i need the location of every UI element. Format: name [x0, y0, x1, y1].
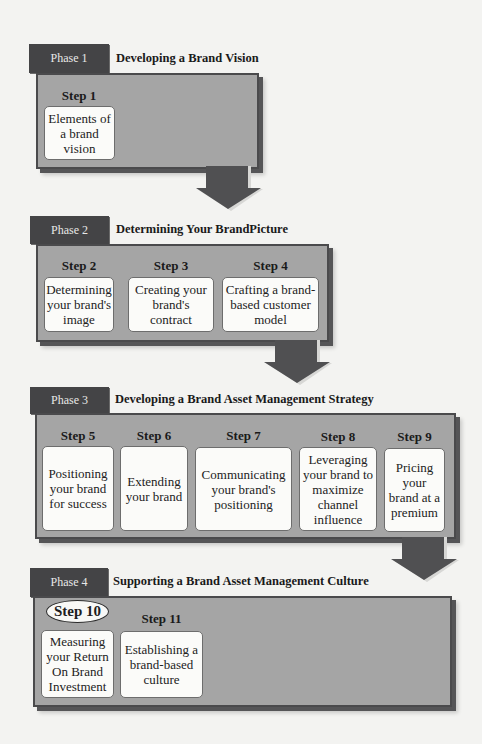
step-2-label: Step 2 [44, 258, 114, 274]
step-1-card: Elements of a brand vision [44, 106, 115, 160]
arrow-down-icon [195, 166, 267, 212]
step-8-card: Leveraging your brand to maximize channe… [299, 447, 377, 531]
step-5-card: Positioning your brand for success [42, 446, 114, 531]
step-7-label: Step 7 [195, 428, 292, 444]
step-4-label: Step 4 [222, 258, 319, 274]
step-4-card: Crafting a brand-based customer model [222, 277, 319, 332]
step-5-label: Step 5 [42, 428, 114, 444]
phase-4-title: Supporting a Brand Asset Management Cult… [113, 574, 369, 589]
phase-2-title: Determining Your BrandPicture [116, 222, 288, 237]
phase-3-title: Developing a Brand Asset Management Stra… [115, 392, 374, 407]
step-2-card: Determining your brand's image [44, 277, 114, 332]
step-6-card: Extending your brand [120, 446, 188, 531]
step-6-label: Step 6 [120, 428, 188, 444]
step-7-card: Communicating your brand's positioning [195, 447, 292, 531]
step-3-card: Creating your brand's contract [128, 277, 214, 332]
step-10-label-highlighted: Step 10 [46, 600, 109, 623]
phase-3-tab: Phase 3 [30, 387, 109, 414]
step-10-card: Measuring your Return On Brand Investmen… [41, 630, 114, 698]
phase-1-tab: Phase 1 [29, 44, 109, 73]
step-1-label: Step 1 [44, 88, 114, 104]
step-3-label: Step 3 [128, 258, 214, 274]
phase-1-title: Developing a Brand Vision [116, 51, 259, 66]
phase-4-tab: Phase 4 [30, 568, 108, 597]
step-11-card: Establishing a brand-based culture [120, 631, 203, 698]
arrow-down-icon [263, 340, 335, 386]
phase-2-tab: Phase 2 [30, 216, 109, 244]
step-8-label: Step 8 [299, 429, 377, 445]
step-9-label: Step 9 [384, 429, 445, 445]
step-11-label: Step 11 [120, 611, 203, 627]
arrow-down-icon [390, 537, 462, 583]
step-9-card: Pricing your brand at a premium [384, 448, 445, 532]
